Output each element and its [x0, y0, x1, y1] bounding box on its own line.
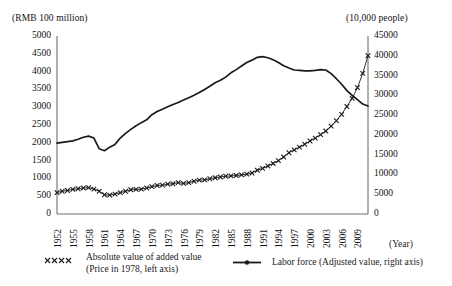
- legend-marker-labor-force: [232, 257, 262, 268]
- data-point-marker: [324, 129, 329, 134]
- data-point-marker: [308, 139, 313, 144]
- right-axis-tick: 15000: [374, 149, 420, 159]
- x-axis-tick: 1973: [164, 229, 174, 248]
- x-axis-tick: 2000: [306, 229, 316, 248]
- left-axis-tick: 4500: [7, 48, 51, 58]
- x-axis-tick: 1982: [211, 229, 221, 248]
- left-axis-tick: 2500: [7, 119, 51, 129]
- series-markers-added-value: [55, 53, 371, 197]
- x-axis-tick: 1967: [132, 229, 142, 248]
- left-axis-tick: 3000: [7, 101, 51, 111]
- legend-marker-added-value: [44, 255, 74, 266]
- legend-label-labor-force: Labor force (Adjusted value, right axis): [272, 257, 423, 269]
- x-axis-tick: 1961: [100, 229, 110, 248]
- chart-figure: (RMB 100 million) (10,000 people) 500045…: [0, 0, 452, 286]
- plot-svg: [57, 36, 368, 214]
- x-axis-tick: 1952: [53, 229, 63, 248]
- legend-label-added-value-line1: Absolute value of added value: [86, 252, 202, 264]
- data-point-marker: [281, 155, 286, 160]
- data-point-marker: [297, 145, 302, 150]
- legend-label-added-value-line2: (Price in 1978, left axis): [86, 264, 202, 276]
- right-axis-tick: 25000: [374, 109, 420, 119]
- data-point-marker: [271, 161, 276, 166]
- data-point-marker: [360, 71, 365, 76]
- left-axis-tick: 1500: [7, 155, 51, 165]
- left-axis-tick: 1000: [7, 172, 51, 182]
- data-point-marker: [355, 85, 360, 90]
- left-axis-tick: 5000: [7, 30, 51, 40]
- left-axis-tick: 500: [7, 190, 51, 200]
- data-point-marker: [97, 189, 102, 194]
- data-point-marker: [334, 118, 339, 123]
- right-axis-tick: 10000: [374, 168, 420, 178]
- right-axis-tick: 0: [374, 208, 420, 218]
- x-axis-tick: 1979: [195, 229, 205, 248]
- data-point-marker: [255, 168, 260, 173]
- left-axis-tick: 0: [7, 208, 51, 218]
- data-point-marker: [292, 148, 297, 153]
- x-axis-tick: 2009: [353, 229, 363, 248]
- data-point-marker: [287, 150, 292, 155]
- axis-frame: [57, 36, 368, 214]
- data-point-marker: [345, 104, 350, 109]
- data-point-marker: [318, 132, 323, 137]
- data-point-marker: [260, 166, 265, 171]
- x-axis-tick: 1970: [148, 229, 158, 248]
- data-point-marker: [276, 158, 281, 163]
- right-axis-tick: 40000: [374, 50, 420, 60]
- plot-area: [57, 36, 368, 214]
- data-point-marker: [313, 136, 318, 141]
- left-axis-tick: 3500: [7, 83, 51, 93]
- x-axis-tick: 1985: [227, 229, 237, 248]
- right-axis-tick: 45000: [374, 30, 420, 40]
- left-axis-tick: 4000: [7, 66, 51, 76]
- right-axis-tick: 30000: [374, 89, 420, 99]
- left-axis-tick: 2000: [7, 137, 51, 147]
- right-axis-tick: 20000: [374, 129, 420, 139]
- legend-entry-labor-force: Labor force (Adjusted value, right axis): [272, 257, 423, 269]
- x-axis-tick: 1976: [180, 229, 190, 248]
- series-line-added-value: [57, 56, 368, 196]
- right-axis-tick: 5000: [374, 188, 420, 198]
- x-axis-name-label: (Year): [389, 239, 413, 249]
- data-point-marker: [350, 96, 355, 101]
- chart-legend: Absolute value of added value (Price in …: [0, 252, 452, 286]
- x-axis-tick: 1994: [274, 229, 284, 248]
- x-axis-tick: 1964: [116, 229, 126, 248]
- series-line-labor-force: [57, 57, 368, 151]
- data-point-marker: [302, 142, 307, 147]
- x-axis-tick: 1988: [243, 229, 253, 248]
- x-axis-tick: 1991: [259, 229, 269, 248]
- left-axis-unit-label: (RMB 100 million): [12, 13, 88, 23]
- legend-entry-added-value: Absolute value of added value (Price in …: [86, 252, 202, 275]
- x-axis-tick: 2003: [322, 229, 332, 248]
- x-axis-tick: 1955: [69, 229, 79, 248]
- data-point-marker: [266, 164, 271, 169]
- x-axis-tick: 1958: [85, 229, 95, 248]
- data-point-marker: [329, 124, 334, 129]
- right-axis-tick: 35000: [374, 70, 420, 80]
- x-axis-tick: 2006: [338, 229, 348, 248]
- x-axis-tick: 1997: [290, 229, 300, 248]
- right-axis-unit-label: (10,000 people): [346, 13, 408, 23]
- data-point-marker: [339, 112, 344, 117]
